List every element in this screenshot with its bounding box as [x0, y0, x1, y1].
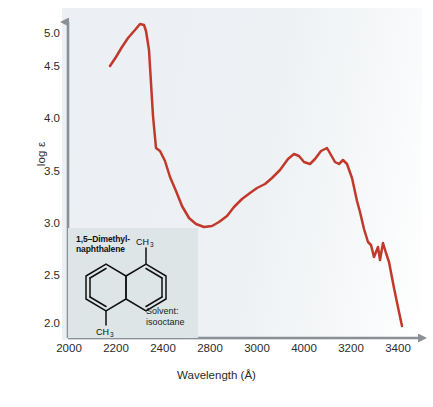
y-tick-4-0: 4.0	[26, 113, 60, 125]
inset-title-line2: naphthalene	[76, 244, 125, 254]
x-tick-2000: 2000	[46, 343, 92, 355]
x-tick-2400: 2400	[140, 343, 186, 355]
y-tick-5-0: 5.0	[26, 28, 60, 40]
y-tick-2-5: 2.5	[26, 270, 60, 282]
solvent-annotation: Solvent: isooctane	[146, 306, 200, 328]
x-tick-2800: 2800	[187, 343, 233, 355]
y-tick-3-0: 3.0	[26, 218, 60, 230]
methyl-bottom-subscript: 3	[110, 331, 114, 338]
x-tick-3200: 3200	[328, 343, 374, 355]
molecule-inset: 1,5–Dimethyl- naphthalene	[68, 228, 198, 338]
methyl-top-subscript: 3	[150, 241, 154, 248]
x-tick-2200: 2200	[93, 343, 139, 355]
x-tick-4000: 4000	[281, 343, 327, 355]
solvent-value: isooctane	[146, 317, 185, 327]
y-tick-2-0: 2.0	[26, 318, 60, 330]
methyl-bottom-label: CH	[96, 327, 109, 337]
solvent-label: Solvent:	[146, 306, 179, 316]
inset-title: 1,5–Dimethyl- naphthalene	[76, 234, 150, 254]
x-axis-ticks: 2000 2200 2400 2800 3000 4000 3200 3400	[0, 343, 433, 363]
x-tick-3400: 3400	[375, 343, 421, 355]
y-tick-3-5: 3.5	[26, 166, 60, 178]
y-tick-4-5: 4.5	[26, 61, 60, 73]
x-tick-3000: 3000	[234, 343, 280, 355]
x-axis-label: Wavelength (Å)	[0, 369, 433, 381]
inset-title-line1: 1,5–Dimethyl-	[76, 234, 130, 244]
spectrum-figure: log ε 2.0 2.5 3.0 3.5 4.0 4.5 5.0 2000 2…	[0, 0, 433, 407]
